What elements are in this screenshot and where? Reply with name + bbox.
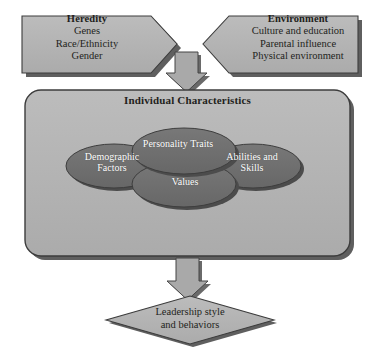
leadership-outcome-shape bbox=[106, 296, 277, 347]
environment-shape bbox=[203, 16, 362, 77]
heredity-shape bbox=[22, 16, 181, 77]
arrow-down-top bbox=[166, 52, 210, 95]
diagram-canvas bbox=[0, 0, 379, 352]
